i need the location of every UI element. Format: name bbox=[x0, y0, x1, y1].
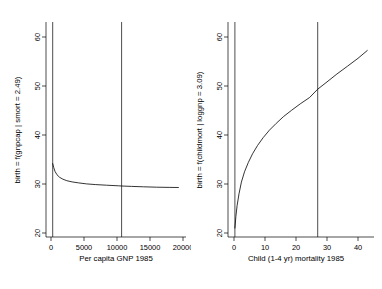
x-tick-labels-right: 0 10 20 30 40 bbox=[232, 243, 362, 252]
x-tick-label: 10 bbox=[261, 243, 269, 252]
x-tick-marks-right bbox=[234, 237, 358, 241]
y-tick-marks-left bbox=[42, 37, 46, 233]
reference-lines-right bbox=[235, 22, 318, 237]
figure-canvas: 20 30 40 50 60 0 5000 10000 15000 20000 … bbox=[0, 0, 382, 289]
x-tick-labels-left: 0 5000 10000 15000 20000 bbox=[49, 243, 191, 252]
x-tick-label: 10000 bbox=[107, 243, 128, 252]
x-tick-marks-left bbox=[51, 237, 183, 241]
y-tick-marks-right bbox=[224, 37, 228, 233]
y-tick-label: 30 bbox=[215, 180, 224, 188]
y-tick-label: 60 bbox=[215, 33, 224, 41]
y-tick-label: 50 bbox=[33, 82, 42, 90]
panel-childmort: 20 30 40 50 60 0 10 20 30 40 Child (1-4 … bbox=[191, 0, 382, 289]
x-tick-label: 20000 bbox=[173, 243, 191, 252]
x-tick-label: 0 bbox=[232, 243, 236, 252]
y-tick-label: 50 bbox=[215, 82, 224, 90]
panel-gnpcap: 20 30 40 50 60 0 5000 10000 15000 20000 … bbox=[0, 0, 191, 289]
x-tick-label: 40 bbox=[354, 243, 362, 252]
y-tick-labels-right: 20 30 40 50 60 bbox=[215, 33, 224, 237]
x-tick-label: 5000 bbox=[76, 243, 92, 252]
y-tick-label: 40 bbox=[33, 131, 42, 139]
y-axis-label: birth = f(gnpcap | smort = 2.49) bbox=[13, 76, 22, 183]
x-tick-label: 20 bbox=[292, 243, 300, 252]
y-tick-label: 20 bbox=[33, 229, 42, 237]
plot-area-gnpcap: 20 30 40 50 60 0 5000 10000 15000 20000 … bbox=[0, 0, 191, 289]
y-tick-label: 40 bbox=[215, 131, 224, 139]
reference-lines-left bbox=[53, 22, 122, 237]
data-curve-gnpcap bbox=[53, 164, 179, 188]
x-tick-label: 0 bbox=[49, 243, 53, 252]
plot-area-childmort: 20 30 40 50 60 0 10 20 30 40 Child (1-4 … bbox=[191, 0, 382, 289]
y-tick-label: 30 bbox=[33, 180, 42, 188]
y-axis-label: birth = f(childmort | loggnp = 3.09) bbox=[195, 71, 204, 188]
data-curve-childmort bbox=[235, 51, 367, 229]
x-tick-label: 15000 bbox=[140, 243, 161, 252]
x-tick-label: 30 bbox=[323, 243, 331, 252]
x-axis-label: Child (1-4 yr) mortality 1985 bbox=[248, 254, 345, 263]
x-axis-label: Per capita GNP 1985 bbox=[79, 254, 153, 263]
axis-spines-left-panel bbox=[46, 22, 186, 237]
axis-spines-right-panel bbox=[228, 22, 374, 237]
y-tick-label: 60 bbox=[33, 33, 42, 41]
y-tick-label: 20 bbox=[215, 229, 224, 237]
y-tick-labels-left: 20 30 40 50 60 bbox=[33, 33, 42, 237]
